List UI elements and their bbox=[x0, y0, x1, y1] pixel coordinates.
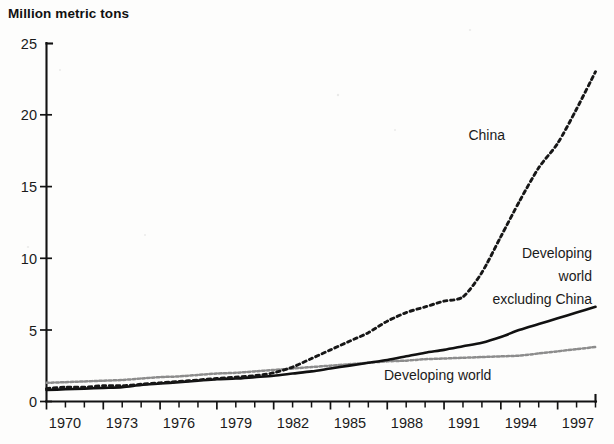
x-tick-labels: 1970 1973 1976 1979 1982 1985 1988 1991 … bbox=[49, 415, 594, 431]
x-tick-label-1976: 1976 bbox=[163, 415, 195, 431]
series-annotation-developing-world: Developing world bbox=[384, 367, 491, 383]
x-tick-label-1985: 1985 bbox=[334, 415, 366, 431]
series-line-developing-world-excluding-china bbox=[47, 307, 596, 390]
series-annotation-china: China bbox=[468, 127, 505, 143]
y-tick-label-10: 10 bbox=[21, 251, 37, 267]
x-tick-label-1970: 1970 bbox=[49, 415, 81, 431]
x-axis bbox=[46, 395, 596, 402]
x-tick-marks bbox=[47, 402, 596, 410]
scan-artifacts bbox=[27, 29, 556, 403]
y-axis bbox=[47, 43, 53, 401]
y-tick-label-15: 15 bbox=[21, 179, 37, 195]
y-tick-labels: 25 20 15 10 5 0 bbox=[21, 36, 37, 410]
series-line-china bbox=[47, 72, 596, 389]
x-tick-label-1994: 1994 bbox=[505, 415, 537, 431]
x-tick-label-1973: 1973 bbox=[106, 415, 138, 431]
line-chart-plot: 25 20 15 10 5 0 1970 1973 1976 1979 1982… bbox=[0, 0, 614, 444]
x-tick-label-1988: 1988 bbox=[391, 415, 423, 431]
series-annotation-developing-excl-china-line1: Developing bbox=[522, 245, 592, 261]
x-tick-label-1982: 1982 bbox=[277, 415, 309, 431]
chart-figure: Million metric tons bbox=[0, 0, 614, 444]
series-line-developing-world bbox=[47, 347, 596, 383]
y-tick-label-25: 25 bbox=[21, 36, 37, 52]
x-tick-label-1979: 1979 bbox=[220, 415, 252, 431]
y-tick-label-20: 20 bbox=[21, 107, 37, 123]
x-tick-label-1997: 1997 bbox=[562, 415, 594, 431]
series-annotation-developing-excl-china-line2: world bbox=[558, 268, 592, 284]
x-tick-label-1991: 1991 bbox=[448, 415, 480, 431]
y-tick-label-0: 0 bbox=[29, 394, 37, 410]
series-annotation-developing-excl-china-line3: excluding China bbox=[492, 291, 592, 307]
y-tick-label-5: 5 bbox=[29, 323, 37, 339]
